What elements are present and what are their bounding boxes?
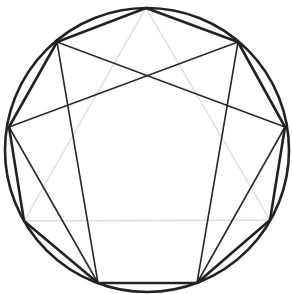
enneagram-diagram <box>0 0 292 294</box>
outer-circle <box>5 8 289 292</box>
nonagon-outline <box>9 8 285 283</box>
enneagram-figure <box>0 0 292 294</box>
hexad-lines <box>9 42 285 283</box>
hexad-1-4-2-8-5-7 <box>9 42 285 283</box>
nonagon <box>9 8 285 283</box>
